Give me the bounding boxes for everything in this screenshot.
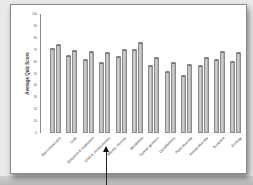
bar [116,57,121,133]
bar-cap [89,51,94,53]
bar [181,76,186,133]
bar-cap [56,44,61,46]
y-tick-label: 20 [25,107,37,111]
bar [236,53,241,133]
y-tick-label: 50 [25,72,37,76]
bar-cap [66,55,71,57]
bar [56,45,61,133]
bar-cap [171,62,176,64]
x-tick-label: Ecology [230,136,242,148]
bar [122,50,127,133]
bar [154,58,159,133]
x-tick-label: Evolution [213,136,226,149]
bar [198,66,203,133]
y-tick-label: 40 [25,83,37,87]
bar [138,43,143,133]
chart-page: Average Quiz Score 010203040506070809010… [10,4,247,174]
bar [83,60,88,133]
bar-cap [116,56,121,58]
bar-cap [181,75,186,77]
bar [105,53,110,133]
y-tick-label: 80 [25,36,37,40]
y-tick-label: 30 [25,95,37,99]
bar [89,52,94,133]
bar [66,56,71,133]
bar [72,51,77,133]
arrow-up-icon [103,146,109,152]
bar [132,50,137,133]
bar-cap [230,61,235,63]
bar [204,58,209,133]
bar [148,66,153,133]
bar-cap [99,62,104,64]
y-axis-line [40,14,41,133]
bar [50,49,55,133]
y-tick-label: 100 [25,12,37,16]
y-tick-label: 60 [25,60,37,64]
bar [214,60,219,133]
bar [171,63,176,133]
x-tick-label: Mendelism [129,136,144,151]
bar [230,62,235,133]
bar-cap [132,49,137,51]
y-tick-label: 0 [25,131,37,135]
bar-cap [138,42,143,44]
bar-cap [50,48,55,50]
x-tick-label: Macromolecules [40,136,61,157]
bar [165,72,170,133]
bar [220,52,225,133]
annotation-arrow-shaft [106,151,107,185]
y-tick-label: 90 [25,24,37,28]
bar [187,65,192,133]
bar-cap [122,49,127,51]
x-tick-label: Cells [70,136,78,144]
surface-shadow [0,176,253,185]
y-tick-label: 70 [25,48,37,52]
bar-cap [204,57,209,59]
bar [99,63,104,133]
y-tick-label: 10 [25,119,37,123]
